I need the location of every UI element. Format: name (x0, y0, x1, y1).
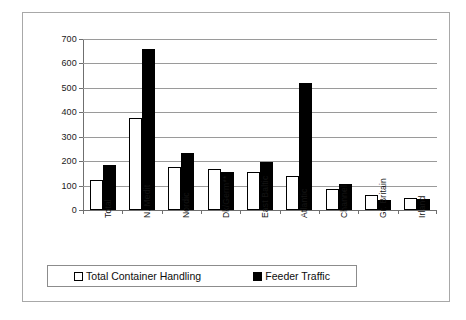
value-axis-label: 500 (61, 83, 77, 93)
category-axis-tick (280, 210, 281, 214)
value-axis-label: 600 (61, 58, 77, 68)
bar-group: Dk/Germ** (201, 39, 240, 210)
bar-0 (326, 189, 339, 210)
category-axis-tick (319, 210, 320, 214)
category-axis-label: Atlantic (299, 189, 309, 218)
category-axis-tick (358, 210, 359, 214)
category-axis-label: Total (103, 199, 113, 218)
bar-group: East Baltic (240, 39, 279, 210)
bar-group: Total (83, 39, 122, 210)
value-axis-label: 200 (61, 156, 77, 166)
bar-group: Channel (319, 39, 358, 210)
category-axis-label: Gr. Britain (378, 178, 388, 218)
legend-filled-square-icon (253, 272, 262, 281)
value-axis-label: 300 (61, 132, 77, 142)
chart-frame: 0100200300400500600700 TotalN. MeditNord… (22, 12, 450, 302)
bar-group: Nordic (162, 39, 201, 210)
value-axis-label: 0 (72, 205, 77, 215)
bar-pair (398, 39, 437, 210)
value-axis-label: 100 (61, 181, 77, 191)
category-axis-label: East Baltic (260, 176, 270, 218)
legend-label: Feeder Traffic (265, 270, 330, 282)
bar-group: N. Medit (122, 39, 161, 210)
value-axis-label: 400 (61, 107, 77, 117)
category-axis-tick (398, 210, 399, 214)
category-axis-tick (162, 210, 163, 214)
legend-entry-0: Total Container Handling (74, 270, 201, 282)
bar-0 (365, 195, 378, 210)
legend-hollow-square-icon (74, 272, 83, 281)
category-axis-label: Irland (417, 196, 427, 218)
bar-group: Atlantic (280, 39, 319, 210)
bar-0 (208, 169, 221, 210)
legend-entry-1: Feeder Traffic (253, 270, 330, 282)
bar-group: Gr. Britain (358, 39, 397, 210)
category-axis-tick (83, 210, 84, 214)
bar-0 (90, 180, 103, 210)
category-axis-label: Nordic (181, 192, 191, 218)
bar-group: Irland (398, 39, 437, 210)
bar-0 (247, 172, 260, 210)
category-axis-tick (122, 210, 123, 214)
chart-legend: Total Container HandlingFeeder Traffic (47, 265, 357, 287)
bar-pair (83, 39, 122, 210)
legend-label: Total Container Handling (86, 270, 201, 282)
value-axis-label: 700 (61, 34, 77, 44)
category-axis-label: Channel (339, 185, 349, 218)
bar-pair (280, 39, 319, 210)
category-axis-label: N. Medit (142, 185, 152, 218)
bar-0 (286, 176, 299, 210)
bar-0 (129, 118, 142, 210)
category-axis-tick (201, 210, 202, 214)
plot-area: 0100200300400500600700 TotalN. MeditNord… (83, 39, 437, 210)
bar-pair (162, 39, 201, 210)
bar-0 (168, 167, 181, 210)
category-axis-label: Dk/Germ** (221, 176, 231, 218)
bar-0 (404, 198, 417, 210)
category-axis-tick (436, 210, 437, 214)
category-axis-tick (240, 210, 241, 214)
